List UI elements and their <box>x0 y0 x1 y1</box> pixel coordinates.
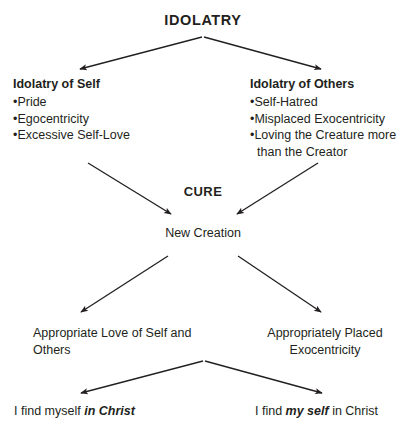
conclusion-right-emphasis: my self <box>286 404 329 418</box>
branch-idolatry-of-self: Idolatry of Self •Pride •Egocentricity •… <box>13 76 193 144</box>
branch-left-list: •Pride •Egocentricity •Excessive Self-Lo… <box>13 94 193 144</box>
conclusion-left-emphasis: in Christ <box>84 404 135 418</box>
diagram-arrows <box>0 0 410 448</box>
list-item: •Egocentricity <box>13 111 193 128</box>
conclusion-right-suffix: in Christ <box>329 404 378 418</box>
branch-right-heading: Idolatry of Others <box>250 76 410 92</box>
conclusion-right-prefix: I find <box>255 404 286 418</box>
arrow-idolatry-to-others <box>204 37 321 69</box>
list-item: •Self-Hatred <box>250 94 410 111</box>
arrow-idolatry-to-self <box>80 37 202 69</box>
branch-left-heading: Idolatry of Self <box>13 76 193 92</box>
arrow-outcomes-to-left-conclusion <box>81 361 203 393</box>
arrow-newcreation-to-left-outcome <box>81 256 168 312</box>
branch-right-list: •Self-Hatred •Misplaced Exocentricity •L… <box>250 94 410 160</box>
arrow-outcomes-to-right-conclusion <box>205 361 322 393</box>
outcome-left: Appropriate Love of Self and Others <box>33 325 213 358</box>
list-item-label: Pride <box>17 95 46 109</box>
conclusion-left: I find myself in Christ <box>14 404 135 418</box>
list-item-label: Misplaced Exocentricity <box>254 112 385 126</box>
new-creation-node: New Creation <box>113 226 293 240</box>
list-item-label: Loving the Creature more than the Creato… <box>254 128 396 159</box>
list-item-label: Excessive Self-Love <box>17 128 130 142</box>
list-item: •Pride <box>13 94 193 111</box>
list-item: •Loving the Creature more than the Creat… <box>250 127 410 160</box>
conclusion-left-prefix: I find myself <box>14 404 84 418</box>
list-item: •Excessive Self-Love <box>13 127 193 144</box>
arrow-newcreation-to-right-outcome <box>238 256 321 312</box>
list-item-label: Egocentricity <box>17 112 89 126</box>
list-item-label: Self-Hatred <box>254 95 317 109</box>
list-item: •Misplaced Exocentricity <box>250 111 410 128</box>
cure-label: CURE <box>123 184 283 199</box>
conclusion-right: I find my self in Christ <box>255 404 378 418</box>
diagram-title: IDOLATRY <box>103 12 303 28</box>
branch-idolatry-of-others: Idolatry of Others •Self-Hatred •Misplac… <box>250 76 410 160</box>
outcome-right: Appropriately Placed Exocentricity <box>245 325 405 358</box>
